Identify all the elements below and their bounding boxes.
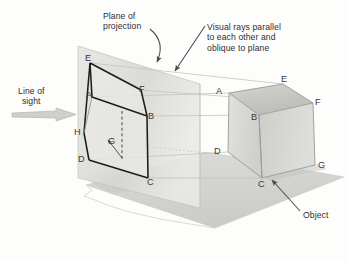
projected-vertex-E: E xyxy=(85,53,91,63)
caption-object-label: Object xyxy=(303,210,328,220)
cube-vertex-G: G xyxy=(318,160,325,170)
caption-visual-rays: Visual rays parallel to each other and o… xyxy=(207,22,281,53)
caption-plane-line1: Plane of xyxy=(103,11,141,21)
diagram-canvas: E A F B H G D C A E B F D C G Plane of p… xyxy=(0,0,348,262)
caption-rays-line1: Visual rays parallel xyxy=(207,22,281,32)
cube-vertex-A: A xyxy=(216,86,222,96)
caption-plane-line2: projection xyxy=(103,21,141,31)
projected-vertex-G: G xyxy=(108,136,115,146)
projected-vertex-F: F xyxy=(139,84,145,94)
cube-vertex-F: F xyxy=(315,97,321,107)
plane-of-projection-arrow xyxy=(150,29,160,62)
cube-vertex-C: C xyxy=(258,179,265,189)
projected-vertex-D: D xyxy=(78,154,85,164)
projected-vertex-B: B xyxy=(148,111,154,121)
cube-vertex-B: B xyxy=(251,112,257,122)
projected-vertex-C: C xyxy=(147,177,154,187)
diagram-geometry xyxy=(0,0,348,262)
caption-line-of-sight: Line of sight xyxy=(18,86,45,107)
visual-rays-arrow xyxy=(175,26,205,71)
projected-vertex-A: A xyxy=(86,90,92,100)
cube-vertex-D: D xyxy=(214,146,221,156)
projected-vertex-H: H xyxy=(74,127,81,137)
caption-object: Object xyxy=(303,210,328,220)
caption-plane-of-projection: Plane of projection xyxy=(103,11,141,32)
caption-sight-line2: sight xyxy=(18,96,45,106)
caption-sight-line1: Line of xyxy=(18,86,45,96)
caption-rays-line3: oblique to plane xyxy=(207,43,281,53)
caption-rays-line2: to each other and xyxy=(207,32,281,42)
cube-vertex-E: E xyxy=(281,74,287,84)
line-of-sight-arrow xyxy=(12,108,76,121)
